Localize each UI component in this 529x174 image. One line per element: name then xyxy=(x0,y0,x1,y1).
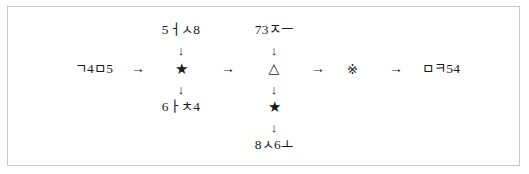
figure-frame: ㄱ4ㅁ5 → ★ → △ → ※ → ㅁㅋ54 5ㅓㅅ8 ↓ ↓ 6ㅏㅊ4 73… xyxy=(7,6,520,166)
main-flow-output-label: ㅁㅋ54 xyxy=(422,62,460,76)
star-operator-branch: ★ xyxy=(268,100,281,115)
arrow-down-icon-3: ↓ xyxy=(271,44,278,57)
star-operator-main: ★ xyxy=(175,62,188,77)
arrow-right-icon-3: → xyxy=(311,62,325,76)
reference-mark-operator-main: ※ xyxy=(347,63,358,76)
main-flow-input-label: ㄱ4ㅁ5 xyxy=(75,62,113,76)
arrow-right-icon-4: → xyxy=(389,62,403,76)
triangle-branch-output-label: 8ㅅ6ㅗ xyxy=(255,138,293,152)
arrow-right-icon-2: → xyxy=(221,62,235,76)
arrow-right-icon-1: → xyxy=(131,62,145,76)
star-branch-input-label: 5ㅓㅅ8 xyxy=(162,23,200,37)
triangle-branch-input-label: 73ㅈㅡ xyxy=(255,23,293,37)
arrow-down-icon-5: ↓ xyxy=(271,121,278,134)
triangle-operator-main: △ xyxy=(269,62,280,76)
arrow-down-icon-1: ↓ xyxy=(178,44,185,57)
arrow-down-icon-4: ↓ xyxy=(271,83,278,96)
star-branch-output-label: 6ㅏㅊ4 xyxy=(162,100,200,114)
arrow-down-icon-2: ↓ xyxy=(178,83,185,96)
